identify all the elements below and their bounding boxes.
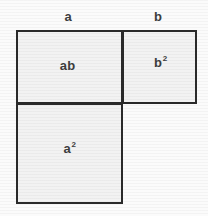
region-b-squared-label-base: b — [154, 56, 162, 71]
region-a-squared-label-base: a — [63, 141, 70, 156]
dimension-label-b: b — [150, 10, 166, 23]
area-diagram: a b ab b2 a2 — [0, 0, 208, 216]
region-a-squared-exponent: 2 — [71, 140, 76, 149]
region-ab-label-base: ab — [60, 58, 76, 73]
region-ab-label: ab — [60, 59, 76, 72]
region-b-squared: b2 — [122, 30, 197, 104]
region-a-squared-label: a2 — [63, 142, 75, 155]
region-b-squared-exponent: 2 — [163, 54, 168, 63]
region-a-squared: a2 — [16, 103, 123, 204]
region-b-squared-label: b2 — [154, 56, 167, 69]
region-ab: ab — [16, 30, 123, 104]
dimension-label-a: a — [60, 10, 76, 23]
